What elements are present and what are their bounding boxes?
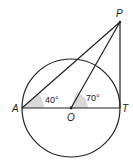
label-p: P	[116, 8, 123, 19]
point-o	[70, 107, 73, 110]
label-t: T	[122, 103, 129, 114]
point-p	[119, 21, 121, 23]
label-o: O	[67, 112, 75, 123]
angle-a-label: 40°	[45, 95, 59, 105]
segment-ap	[22, 22, 120, 108]
angle-o-label: 70°	[86, 93, 100, 103]
label-a: A	[11, 103, 19, 114]
geometry-diagram: P A O T 40° 70°	[0, 0, 133, 164]
